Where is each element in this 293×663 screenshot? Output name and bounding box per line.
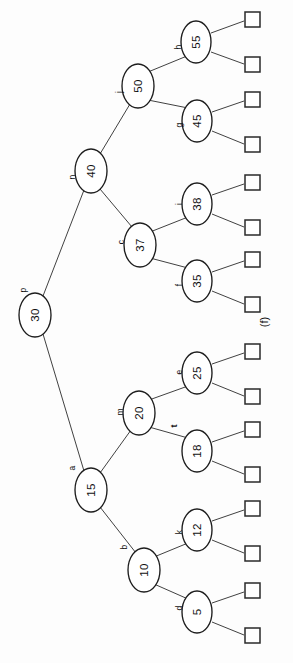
null-leaf-square xyxy=(245,628,260,643)
node-value-label: 20 xyxy=(133,406,145,419)
null-leaf-square xyxy=(245,220,260,235)
node-tag-label: m xyxy=(115,408,125,415)
tree-node-5: 5d xyxy=(174,591,212,633)
null-leaf-square xyxy=(245,583,260,598)
tree-edge-n30-n40 xyxy=(43,190,84,296)
edges-layer xyxy=(43,56,188,599)
null-leaf-edge-sq7 xyxy=(212,261,244,272)
node-value-label: 35 xyxy=(191,274,203,287)
tree-node-40: 40n xyxy=(67,149,107,193)
tree-node-25: 25e xyxy=(174,352,212,394)
tree-node-12: 12k xyxy=(174,509,212,551)
tree-node-35: 35f xyxy=(174,260,212,302)
tree-edge-n50-n45 xyxy=(148,100,188,108)
null-leaf-square xyxy=(245,546,260,561)
node-value-label: 45 xyxy=(191,114,203,127)
node-value-label: 55 xyxy=(190,35,202,48)
null-leaf-edge-sq12 xyxy=(212,461,244,474)
null-leaf-edge-sq10 xyxy=(212,383,244,396)
tree-node-38: 38i xyxy=(174,183,212,225)
node-tag-label: g xyxy=(174,122,184,127)
null-leaf-square xyxy=(245,57,260,72)
node-value-label: 12 xyxy=(191,523,203,536)
null-leaf-square xyxy=(245,137,260,152)
node-value-label: 40 xyxy=(85,164,97,177)
figure-caption-layer: (f) xyxy=(258,317,270,327)
node-value-label: 5 xyxy=(191,609,203,616)
null-leaf-edge-sq3 xyxy=(212,101,244,112)
null-leaf-edge-sq16 xyxy=(212,622,244,635)
node-value-label: 15 xyxy=(85,483,97,496)
node-value-label: 38 xyxy=(191,197,203,210)
node-value-label: 25 xyxy=(191,366,203,379)
tree-edge-n37-n38 xyxy=(150,217,188,232)
node-tag-label: a xyxy=(67,465,77,470)
null-leaf-edge-sq13 xyxy=(212,510,244,521)
node-tag-label: n xyxy=(67,174,77,179)
binary-tree-diagram: 30p40n15a50j37c20m10b55h45g38i35f25e18t1… xyxy=(0,0,293,663)
tree-node-15: 15a xyxy=(67,465,107,512)
tree-node-37: 37c xyxy=(116,223,156,267)
figure-container: 30p40n15a50j37c20m10b55h45g38i35f25e18t1… xyxy=(0,0,293,663)
tree-edge-n20-n18 xyxy=(149,427,188,438)
tree-edge-n40-n37 xyxy=(100,189,132,227)
node-value-label: 18 xyxy=(191,444,203,457)
null-leaf-square xyxy=(245,422,260,437)
node-value-label: 10 xyxy=(138,563,150,576)
tree-node-10: 10b xyxy=(119,544,160,592)
node-value-label: 50 xyxy=(132,79,144,92)
null-leaf-square xyxy=(245,12,260,27)
null-leaf-square xyxy=(245,467,260,482)
tree-node-50: 50j xyxy=(114,64,154,108)
node-tag-label: b xyxy=(119,544,129,549)
tree-edge-n20-n25 xyxy=(149,386,188,400)
tree-edge-n15-n10 xyxy=(100,507,136,553)
null-leaf-edge-sq8 xyxy=(212,291,244,304)
null-leaf-links-layer xyxy=(211,21,244,635)
null-leaf-square xyxy=(245,92,260,107)
null-leaf-square xyxy=(245,344,260,359)
null-leaf-edge-sq15 xyxy=(212,592,244,603)
tree-edge-n40-n50 xyxy=(100,104,130,154)
null-leaf-edge-sq14 xyxy=(212,540,244,553)
figure-caption: (f) xyxy=(258,317,270,327)
null-leaf-edge-sq9 xyxy=(212,353,244,364)
node-tag-label: t xyxy=(169,425,179,428)
node-tag-label: p xyxy=(18,287,28,292)
null-leaf-square xyxy=(245,389,260,404)
null-leaf-edge-sq4 xyxy=(212,131,244,144)
node-tag-label: e xyxy=(174,369,184,374)
node-tag-label: i xyxy=(174,203,184,205)
tree-node-20: 20m xyxy=(115,391,155,435)
node-tag-label: j xyxy=(114,91,124,94)
tree-edge-n30-n15 xyxy=(43,334,84,471)
node-tag-label: h xyxy=(173,44,183,49)
tree-node-18: 18t xyxy=(169,425,212,473)
null-leaf-square xyxy=(245,297,260,312)
null-leaf-edge-sq6 xyxy=(212,214,244,227)
null-leaf-edge-sq2 xyxy=(211,52,244,64)
tree-edge-n10-n12 xyxy=(154,543,188,557)
tree-edge-n50-n55 xyxy=(148,56,187,72)
tree-edge-n37-n35 xyxy=(150,258,188,268)
node-tag-label: d xyxy=(174,605,184,610)
tree-edge-n15-n20 xyxy=(100,430,131,473)
node-value-label: 30 xyxy=(29,308,41,321)
null-leaf-edge-sq1 xyxy=(211,21,244,33)
tree-node-30: 30p xyxy=(18,287,51,337)
null-leaf-edge-sq5 xyxy=(212,184,244,195)
null-leaf-edge-sq11 xyxy=(212,431,244,442)
tree-node-55: 55h xyxy=(173,21,211,63)
null-leaf-square xyxy=(245,501,260,516)
null-leaf-square xyxy=(245,252,260,267)
null-leaf-square xyxy=(245,175,260,190)
tree-nodes-layer: 30p40n15a50j37c20m10b55h45g38i35f25e18t1… xyxy=(18,21,212,633)
tree-edge-n10-n5 xyxy=(154,584,188,599)
node-value-label: 37 xyxy=(134,238,146,251)
